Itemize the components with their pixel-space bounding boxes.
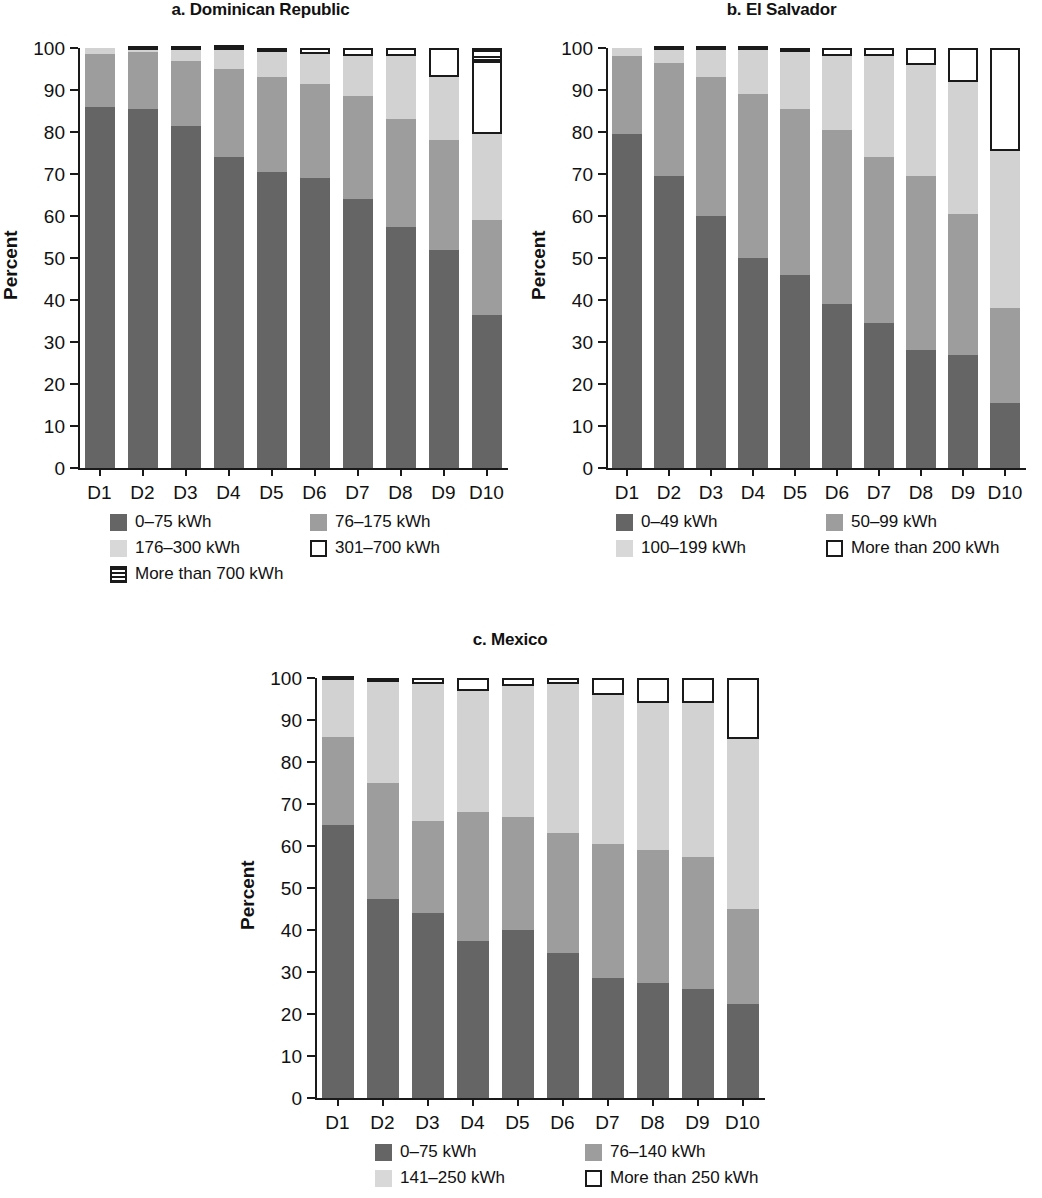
y-tick-label: 30 <box>0 333 65 352</box>
x-tick-mark <box>607 1098 609 1106</box>
bar-d10 <box>990 48 1020 468</box>
legend-item[interactable]: More than 700 kWh <box>110 564 310 584</box>
bar-segment <box>990 403 1020 468</box>
bar-segment <box>412 821 444 913</box>
legend-item[interactable]: 0–75 kWh <box>110 512 310 532</box>
x-tick-mark <box>626 468 628 476</box>
bar-segment <box>948 82 978 214</box>
y-axis-line <box>315 678 317 1098</box>
y-tick-mark <box>307 845 315 847</box>
bar-segment <box>637 850 669 982</box>
bar-d6 <box>547 678 579 1098</box>
x-tick-mark <box>427 1098 429 1106</box>
bar-d4 <box>214 48 244 468</box>
bar-segment <box>502 930 534 1098</box>
legend-label: 301–700 kWh <box>335 538 440 558</box>
y-tick-mark <box>598 467 606 469</box>
bar-segment <box>780 109 810 275</box>
legend-item[interactable]: 100–199 kWh <box>616 538 826 558</box>
legend-item[interactable]: 76–175 kWh <box>310 512 510 532</box>
bar-segment <box>738 50 768 94</box>
y-tick-label: 0 <box>230 1089 302 1108</box>
legend-item[interactable]: 301–700 kWh <box>310 538 510 558</box>
bar-segment <box>214 50 244 69</box>
legend-swatch-icon <box>585 1170 602 1187</box>
bar-segment <box>696 77 726 216</box>
legend-item[interactable]: 0–49 kWh <box>616 512 826 532</box>
legend-swatch-icon <box>826 514 843 531</box>
y-tick-label: 100 <box>521 39 593 58</box>
legend-label: More than 700 kWh <box>135 564 283 584</box>
x-tick-mark <box>314 468 316 476</box>
legend-item[interactable]: 50–99 kWh <box>826 512 1036 532</box>
x-tick-mark <box>472 1098 474 1106</box>
bar-segment <box>822 56 852 130</box>
bar-segment <box>612 134 642 468</box>
y-tick-mark <box>70 341 78 343</box>
y-tick-label: 90 <box>521 81 593 100</box>
x-tick-label-d8: D8 <box>388 482 412 504</box>
legend-a: 0–75 kWh76–175 kWh176–300 kWh301–700 kWh… <box>110 512 510 590</box>
panel-el-salvador: b. El Salvador Percent010203040506070809… <box>521 0 1042 600</box>
legend-row: More than 700 kWh <box>110 564 510 584</box>
x-tick-mark <box>382 1098 384 1106</box>
legend-item[interactable]: 176–300 kWh <box>110 538 310 558</box>
legend-item[interactable]: More than 200 kWh <box>826 538 1036 558</box>
legend-c: 0–75 kWh76–140 kWh141–250 kWhMore than 2… <box>375 1142 795 1194</box>
x-tick-label-d1: D1 <box>325 1112 349 1134</box>
bar-segment <box>654 176 684 468</box>
y-tick-label: 20 <box>0 375 65 394</box>
y-tick-label: 40 <box>0 291 65 310</box>
x-tick-label-d2: D2 <box>657 482 681 504</box>
bar-segment <box>322 680 354 737</box>
bar-segment <box>864 157 894 323</box>
x-tick-mark <box>920 468 922 476</box>
y-tick-label: 90 <box>230 711 302 730</box>
bar-segment <box>727 739 759 909</box>
y-tick-label: 80 <box>0 123 65 142</box>
x-tick-mark <box>697 1098 699 1106</box>
bar-segment <box>502 686 534 816</box>
bar-segment <box>906 176 936 350</box>
legend-row: 176–300 kWh301–700 kWh <box>110 538 510 558</box>
legend-item[interactable]: 0–75 kWh <box>375 1142 585 1162</box>
legend-label: 0–49 kWh <box>641 512 718 532</box>
x-tick-label-d6: D6 <box>302 482 326 504</box>
x-tick-label-d7: D7 <box>595 1112 619 1134</box>
plot-area-a: Percent0102030405060708090100D1D2D3D4D5D… <box>0 40 521 470</box>
legend-label: More than 250 kWh <box>610 1168 758 1188</box>
x-tick-mark <box>443 468 445 476</box>
legend-swatch-icon <box>585 1144 602 1161</box>
bar-segment <box>412 684 444 821</box>
x-tick-mark <box>962 468 964 476</box>
y-tick-label: 40 <box>230 921 302 940</box>
bar-segment <box>948 48 978 82</box>
bar-segment <box>171 46 201 50</box>
bar-d8 <box>386 48 416 468</box>
bar-segment <box>547 678 579 684</box>
bar-segment <box>457 812 489 940</box>
legend-item[interactable]: More than 250 kWh <box>585 1168 795 1188</box>
bar-segment <box>214 157 244 468</box>
legend-swatch-icon <box>375 1144 392 1161</box>
legend-swatch-icon <box>616 514 633 531</box>
x-tick-mark <box>1004 468 1006 476</box>
y-tick-mark <box>598 131 606 133</box>
bar-d9 <box>429 48 459 468</box>
bar-segment <box>386 227 416 469</box>
bar-d8 <box>637 678 669 1098</box>
y-tick-label: 100 <box>230 669 302 688</box>
legend-item[interactable]: 76–140 kWh <box>585 1142 795 1162</box>
y-tick-label: 10 <box>230 1047 302 1066</box>
bar-segment <box>429 250 459 468</box>
y-tick-label: 20 <box>521 375 593 394</box>
bar-segment <box>300 178 330 468</box>
x-tick-mark <box>142 468 144 476</box>
bar-segment <box>343 56 373 96</box>
bar-segment <box>457 941 489 1099</box>
panel-c-title: c. Mexico <box>230 630 790 650</box>
x-tick-mark <box>836 468 838 476</box>
y-tick-label: 100 <box>0 39 65 58</box>
bar-d2 <box>367 678 399 1098</box>
legend-item[interactable]: 141–250 kWh <box>375 1168 585 1188</box>
